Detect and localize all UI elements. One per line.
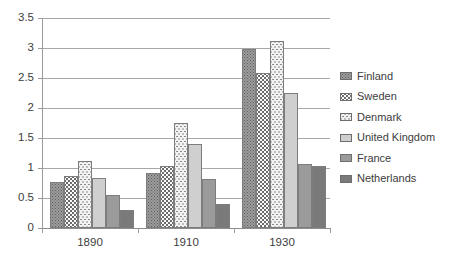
y-axis-tick-label: 0 bbox=[0, 222, 34, 233]
legend-label: Sweden bbox=[357, 91, 397, 102]
plot-area bbox=[42, 18, 330, 228]
bar bbox=[242, 49, 256, 228]
legend-swatch-icon bbox=[340, 72, 352, 80]
legend-swatch-icon bbox=[340, 134, 352, 142]
legend-swatch-icon bbox=[340, 93, 352, 101]
bar bbox=[106, 195, 120, 228]
x-axis-tick-label: 1890 bbox=[60, 236, 120, 248]
y-axis-tick-label: 1.5 bbox=[0, 132, 34, 143]
bar bbox=[64, 176, 78, 228]
legend-item: Sweden bbox=[340, 87, 454, 108]
legend-label: Finland bbox=[357, 71, 393, 82]
bar bbox=[202, 179, 216, 228]
legend-label: France bbox=[357, 153, 391, 164]
bar bbox=[174, 123, 188, 228]
bar bbox=[270, 41, 284, 228]
bar bbox=[120, 210, 134, 228]
y-axis-tick-label: 2.5 bbox=[0, 72, 34, 83]
bar bbox=[284, 93, 298, 228]
y-axis-line bbox=[42, 18, 43, 229]
bar bbox=[256, 73, 270, 228]
bar bbox=[160, 166, 174, 228]
legend-item: Netherlands bbox=[340, 169, 454, 190]
bar bbox=[50, 182, 64, 228]
legend-swatch-icon bbox=[340, 175, 352, 183]
chart-legend: FinlandSwedenDenmarkUnited KingdomFrance… bbox=[340, 66, 454, 189]
y-axis-tick-label: 2 bbox=[0, 102, 34, 113]
legend-swatch-icon bbox=[340, 154, 352, 162]
x-axis-tick bbox=[138, 228, 139, 233]
x-axis-tick bbox=[42, 228, 43, 233]
legend-item: France bbox=[340, 148, 454, 169]
x-axis-tick bbox=[330, 228, 331, 233]
x-axis-tick-label: 1910 bbox=[156, 236, 216, 248]
bar-group bbox=[146, 18, 230, 228]
legend-label: Netherlands bbox=[357, 173, 416, 184]
legend-item: Denmark bbox=[340, 107, 454, 128]
legend-item: Finland bbox=[340, 66, 454, 87]
bar bbox=[298, 164, 312, 228]
bar-chart: 3.532.521.510.50 189019101930 FinlandSwe… bbox=[0, 0, 454, 261]
bar bbox=[188, 144, 202, 228]
bar bbox=[312, 166, 326, 228]
bar-group bbox=[242, 18, 326, 228]
bar bbox=[216, 204, 230, 228]
bar bbox=[78, 161, 92, 228]
y-axis-tick-label: 0.5 bbox=[0, 192, 34, 203]
y-axis-tick-label: 1 bbox=[0, 162, 34, 173]
bar bbox=[92, 178, 106, 228]
x-axis-tick bbox=[234, 228, 235, 233]
bar bbox=[146, 173, 160, 228]
x-axis-line bbox=[42, 228, 331, 229]
x-axis-tick-label: 1930 bbox=[252, 236, 312, 248]
legend-swatch-icon bbox=[340, 113, 352, 121]
y-axis-tick-label: 3 bbox=[0, 42, 34, 53]
y-axis-tick-label: 3.5 bbox=[0, 12, 34, 23]
legend-label: United Kingdom bbox=[357, 132, 435, 143]
legend-item: United Kingdom bbox=[340, 128, 454, 149]
bar-group bbox=[50, 18, 134, 228]
legend-label: Denmark bbox=[357, 112, 402, 123]
